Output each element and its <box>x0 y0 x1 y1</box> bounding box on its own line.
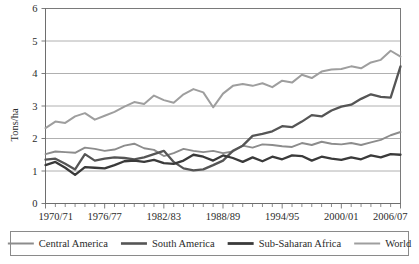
y-axis-ticks <box>42 9 46 204</box>
x-tick-label-36: 2006/07 <box>373 211 407 222</box>
y-tick-label-1: 1 <box>32 166 37 177</box>
series-line-world <box>46 51 401 128</box>
x-tick-label-24: 1994/95 <box>265 211 299 222</box>
y-tick-label-0: 0 <box>32 198 37 209</box>
data-series-group <box>46 51 401 175</box>
y-axis-title: Tons/ha <box>9 108 20 141</box>
legend-label-0: Central America <box>39 238 108 249</box>
x-axis-tick-labels: 1970/711976/771982/831988/891994/952000/… <box>39 211 408 222</box>
legend-label-3: World <box>385 238 412 249</box>
y-tick-label-3: 3 <box>32 101 37 112</box>
series-line-central-america <box>46 132 401 156</box>
legend-label-1: South America <box>152 238 215 249</box>
x-tick-label-18: 1988/89 <box>206 211 240 222</box>
line-chart: 0123456 1970/711976/771982/831988/891994… <box>0 0 419 264</box>
y-axis: 0123456 <box>32 3 45 209</box>
y-tick-label-6: 6 <box>32 3 37 14</box>
legend: Central AmericaSouth AmericaSub-Saharan … <box>8 232 412 256</box>
y-tick-label-4: 4 <box>32 68 38 79</box>
x-tick-label-12: 1982/83 <box>147 211 181 222</box>
y-tick-label-2: 2 <box>32 133 37 144</box>
chart-figure: 0123456 1970/711976/771982/831988/891994… <box>0 0 419 264</box>
legend-label-2: Sub-Saharan Africa <box>259 238 342 249</box>
series-line-sub-saharan-africa <box>46 154 401 175</box>
x-tick-label-0: 1970/71 <box>39 211 73 222</box>
x-tick-label-6: 1976/77 <box>87 211 121 222</box>
y-axis-tick-labels: 0123456 <box>32 3 38 209</box>
x-axis: 1970/711976/771982/831988/891994/952000/… <box>39 204 408 222</box>
x-tick-label-30: 2000/01 <box>324 211 358 222</box>
y-tick-label-5: 5 <box>32 36 37 47</box>
plot-gridlines <box>46 9 401 172</box>
x-axis-ticks <box>46 204 401 209</box>
